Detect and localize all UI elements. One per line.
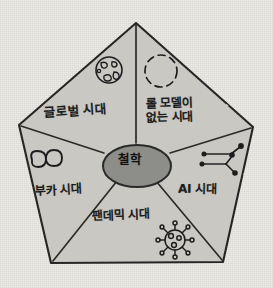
- sector-label-vuca: 부카 시대: [35, 182, 82, 199]
- diagram-canvas: 글로벌 시대 롤 모델이 없는 시대 AI 시대 팬데믹 시대 부카 시대 철학: [0, 0, 273, 288]
- sector-label-ai: AI 시대: [178, 182, 217, 197]
- pentagon-diagram-svg: [0, 0, 273, 288]
- center-node-label: 철학: [118, 153, 141, 168]
- sector-label-no-role-model: 롤 모델이 없는 시대: [146, 95, 194, 125]
- sector-label-no-role-model-line2: 없는 시대: [146, 109, 193, 125]
- sector-label-pandemic: 팬데믹 시대: [92, 207, 150, 223]
